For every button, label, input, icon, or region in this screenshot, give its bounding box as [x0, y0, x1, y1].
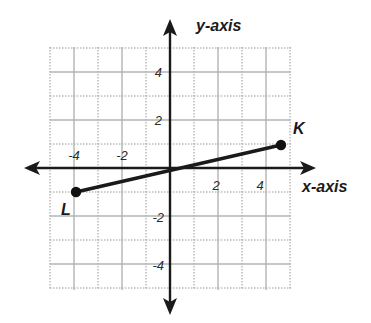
x-axis-title: x-axis — [301, 178, 347, 195]
x-tick-label-pos4: 4 — [256, 178, 263, 193]
point-l-marker — [71, 187, 81, 197]
graph-canvas: -4 -2 2 4 4 2 -2 -4 y-axis x-axis K L — [0, 0, 371, 323]
point-l-label: L — [61, 201, 71, 218]
x-tick-label-neg2: -2 — [116, 148, 128, 163]
point-k-marker — [276, 140, 286, 150]
y-tick-label-neg2: -2 — [152, 210, 164, 225]
y-tick-label-neg4: -4 — [152, 258, 164, 273]
point-k-label: K — [293, 120, 306, 137]
y-tick-label-pos2: 2 — [154, 113, 163, 128]
x-tick-label-pos2: 2 — [211, 178, 220, 193]
y-axis-title: y-axis — [195, 17, 241, 34]
coordinate-plane-figure: -4 -2 2 4 4 2 -2 -4 y-axis x-axis K L — [0, 0, 371, 323]
x-tick-label-neg4: -4 — [68, 148, 80, 163]
y-tick-label-pos4: 4 — [155, 65, 162, 80]
